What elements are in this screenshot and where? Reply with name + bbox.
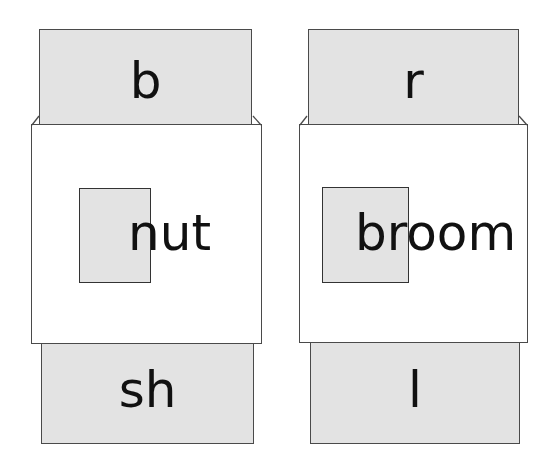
bottom-card-letter: l [408, 365, 422, 415]
word-right: broom [355, 208, 516, 258]
bottom-card-letter: sh [119, 365, 177, 415]
top-card-right[interactable]: r [308, 29, 519, 127]
word-rest: ut [160, 204, 211, 262]
word-left: nut [128, 208, 211, 258]
bottom-card-right[interactable]: l [310, 342, 520, 444]
sleeve-corner-left [30, 114, 264, 128]
top-card-letter: r [403, 56, 424, 106]
bottom-card-left[interactable]: sh [41, 342, 254, 444]
word-rest: oom [406, 204, 516, 262]
top-card-letter: b [130, 56, 162, 106]
sleeve-corner-right [298, 114, 530, 128]
top-card-left[interactable]: b [39, 29, 252, 127]
window-letters: br [355, 204, 406, 262]
window-letters: n [128, 204, 160, 262]
